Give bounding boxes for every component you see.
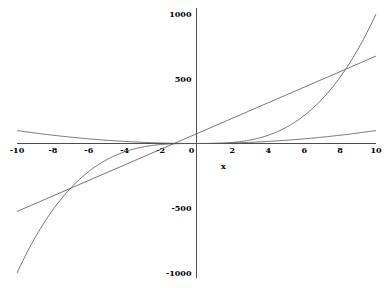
x-tick-label: 6: [301, 145, 307, 155]
y-tick-label: -500: [171, 203, 191, 213]
x-tick-label: 2: [230, 145, 236, 155]
x-tick-label: -10: [10, 145, 25, 155]
y-tick-label: -1000: [166, 268, 192, 278]
y-tick-label: 1000: [169, 9, 192, 19]
x-tick-label: -8: [48, 145, 57, 155]
x-tick-label: 8: [337, 145, 343, 155]
x-tick-label: 0: [189, 145, 195, 155]
x-tick-label: -6: [84, 145, 93, 155]
x-tick-label: 4: [266, 145, 272, 155]
plot-area: -10-8-6-4-202468101000500-500-1000x: [0, 0, 389, 288]
chart: -10-8-6-4-202468101000500-500-1000x: [0, 0, 389, 288]
x-tick-label: 10: [370, 145, 382, 155]
y-tick-label: 500: [175, 74, 192, 84]
x-axis-label: x: [221, 161, 226, 171]
